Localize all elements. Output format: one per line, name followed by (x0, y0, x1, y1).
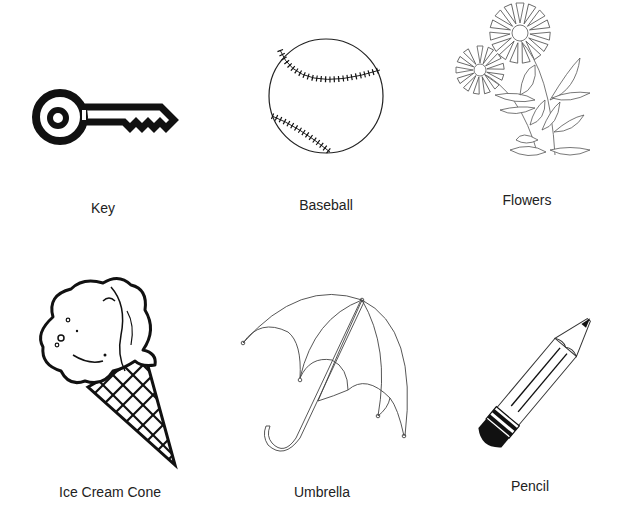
ice-cream-cone-icon (33, 275, 178, 470)
item-label-umbrella: Umbrella (294, 484, 350, 500)
umbrella-picture (240, 288, 420, 443)
umbrella-icon (240, 288, 420, 443)
baseball-picture (268, 36, 386, 156)
flowers-icon (450, 0, 590, 165)
item-label-key: Key (91, 200, 115, 216)
baseball-icon (268, 36, 386, 156)
ice-cream-cone-picture (33, 275, 178, 470)
item-label-baseball: Baseball (299, 197, 353, 213)
item-label-ice-cream-cone: Ice Cream Cone (59, 484, 161, 500)
pencil-icon (472, 302, 602, 450)
key-picture (28, 85, 178, 155)
key-icon (28, 85, 178, 155)
flowers-picture (450, 0, 590, 165)
pencil-picture (472, 302, 602, 450)
item-label-flowers: Flowers (502, 192, 551, 208)
item-label-pencil: Pencil (511, 478, 549, 494)
